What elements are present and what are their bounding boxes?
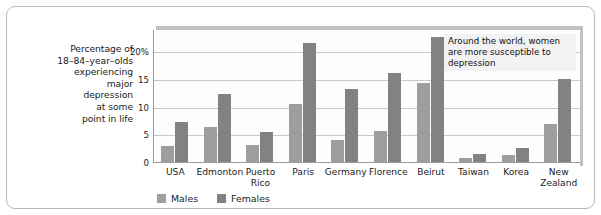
x-axis-category-line: Taiwan [452,167,495,178]
y-axis-label-line: at some [21,101,133,113]
bar-males [289,104,302,162]
annotation-line: are more susceptible to [448,47,573,58]
bar-males [502,155,515,162]
chart-figure: Percentage of18–84–year–oldsexperiencing… [6,6,595,209]
x-axis-category-line: Germany [324,167,367,178]
y-axis-tick-label: 0 [144,158,149,168]
legend-item-males: Males [157,193,198,204]
x-axis-category-labels: USAEdmontonPuertoRicoParisGermanyFlorenc… [154,167,581,193]
bar-group [240,30,283,162]
x-axis-category-line: New [537,167,580,178]
bar-females [473,154,486,162]
chart-annotation: Around the world, womenare more suscepti… [444,34,576,71]
legend-swatch-males [157,194,166,203]
x-axis-category: USA [154,167,197,178]
legend-swatch-females [217,194,226,203]
x-axis-category-line: Florence [367,167,410,178]
y-axis-label-line: point in life [21,113,133,125]
x-axis-category: Taiwan [452,167,495,178]
bar-males [417,83,430,162]
bar-males [374,131,387,162]
x-axis-category-line: Zealand [537,178,580,189]
legend-label: Females [231,193,270,204]
bar-males [459,158,472,162]
bar-males [204,127,217,162]
x-axis-category: Germany [324,167,367,178]
y-axis-tick-label: 5 [144,130,149,140]
bar-males [246,145,259,162]
bar-females [303,43,316,162]
y-axis-label-line: depression [21,89,133,101]
x-axis-category-line: USA [154,167,197,178]
x-axis-category: Korea [495,167,538,178]
bar-females [260,132,273,162]
bar-group [155,30,198,162]
bar-group [325,30,368,162]
x-axis-category-line: Paris [282,167,325,178]
x-axis-category: Edmonton [197,167,240,178]
y-axis-tick-label: 10 [138,103,149,113]
x-axis-category: PuertoRico [239,167,282,189]
bar-females [558,79,571,162]
legend-label: Males [171,193,198,204]
bar-males [161,146,174,162]
bar-females [218,94,231,162]
bar-group [198,30,241,162]
annotation-line: depression [448,58,573,69]
chart-legend: MalesFemales [157,193,270,204]
bar-males [544,124,557,162]
x-axis-category: Beirut [410,167,453,178]
bar-females [345,89,358,162]
y-axis-label-line: 18–84–year–olds [21,55,133,67]
legend-item-females: Females [217,193,270,204]
x-axis-category: Florence [367,167,410,178]
x-axis-category-line: Rico [239,178,282,189]
bar-females [175,122,188,162]
y-axis-label: Percentage of18–84–year–oldsexperiencing… [21,43,133,124]
bar-group [368,30,411,162]
bar-females [516,148,529,162]
y-axis-tick-label: 20% [130,47,149,57]
y-axis-label-line: major [21,78,133,90]
y-axis-label-line: experiencing [21,66,133,78]
y-axis-tick-label: 15 [138,75,149,85]
bar-females [388,73,401,162]
x-axis-category-line: Edmonton [197,167,240,178]
x-axis-category: Paris [282,167,325,178]
bar-group [283,30,326,162]
x-axis-category: NewZealand [537,167,580,189]
bar-females [431,37,444,162]
x-axis-category-line: Korea [495,167,538,178]
x-axis-category-line: Puerto [239,167,282,178]
bar-males [331,140,344,162]
annotation-line: Around the world, women [448,36,573,47]
x-axis-category-line: Beirut [410,167,453,178]
y-axis-label-line: Percentage of [21,43,133,55]
